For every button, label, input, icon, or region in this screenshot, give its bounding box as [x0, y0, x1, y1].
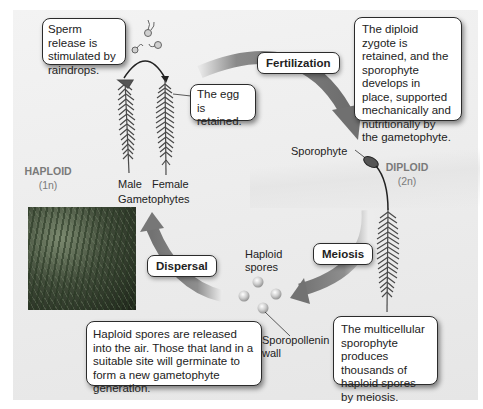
haploid-spores-line2: spores — [245, 261, 282, 274]
egg-retained-callout: The egg is retained. — [190, 84, 256, 121]
haploid-ploidy: (1n) — [24, 178, 72, 192]
dispersal-arrow — [140, 212, 222, 296]
moss-photo — [28, 207, 136, 310]
zygote-callout: The diploid zygote is retained, and the … — [354, 17, 462, 121]
male-gametophyte-plant — [118, 80, 135, 173]
diploid-text: DIPLOID — [385, 160, 429, 174]
haploid-spores-label: Haploid spores — [245, 248, 282, 274]
spores-released-callout: Haploid spores are released into the air… — [86, 321, 262, 386]
haploid-spores-line1: Haploid — [245, 248, 282, 261]
sporophyte-produces-callout: The multicellular sporophyte produces th… — [333, 316, 438, 385]
sporopollenin-line2: wall — [262, 347, 329, 360]
gametophytes-label: Gametophytes — [118, 193, 190, 206]
female-label: Female — [152, 178, 189, 191]
sporopollenin-label: Sporopollenin wall — [262, 334, 329, 360]
fertilization-label: Fertilization — [257, 52, 340, 74]
sporopollenin-leader-line — [265, 312, 290, 336]
spores-released-text: Haploid spores are released into the air… — [93, 328, 253, 394]
haploid-text: HAPLOID — [24, 164, 72, 178]
male-label: Male — [118, 178, 142, 191]
sperm-release-callout: Sperm release is stimulated by raindrops… — [42, 18, 126, 65]
sporophyte-label: Sporophyte — [291, 145, 347, 158]
haploid-phase-label: HAPLOID (1n) — [24, 164, 72, 192]
diploid-ploidy: (2n) — [385, 174, 429, 188]
female-gametophyte-plant — [156, 80, 174, 175]
dispersal-label: Dispersal — [147, 255, 217, 277]
diploid-phase-label: DIPLOID (2n) — [385, 160, 429, 188]
sporopollenin-line1: Sporopollenin — [262, 334, 329, 347]
meiosis-label: Meiosis — [313, 243, 373, 265]
haploid-spores — [239, 277, 282, 314]
egg-retained-text: The egg is retained. — [197, 88, 242, 127]
sperm-icon — [132, 20, 162, 53]
